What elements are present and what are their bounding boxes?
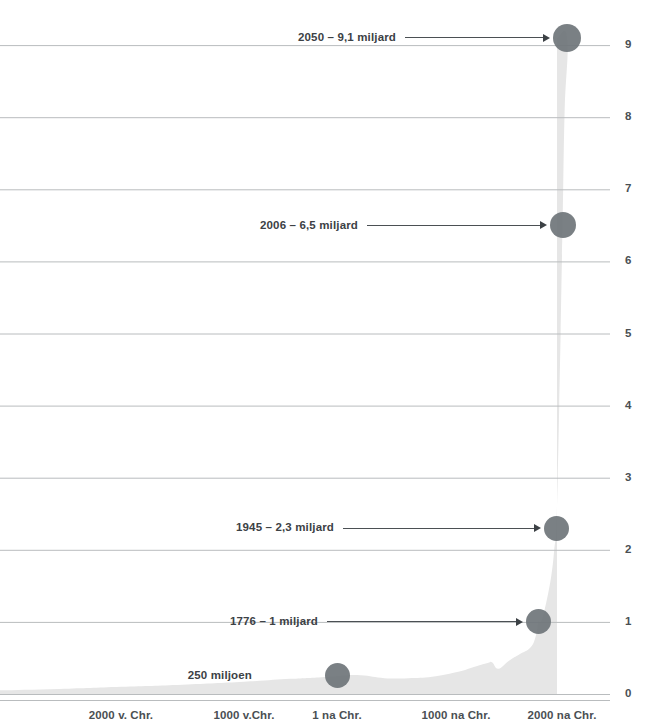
annotation-1945: 1945 – 2,3 miljard <box>236 520 541 536</box>
annotation-label-1: 250 miljoen <box>188 670 252 682</box>
arrow-shaft <box>367 225 540 226</box>
annotation-callouts: 2050 – 9,1 miljard2006 – 6,5 miljard1945… <box>0 0 657 728</box>
annotation-arrow-icon-1945 <box>343 524 541 532</box>
arrow-head <box>543 34 550 42</box>
annotation-arrow-icon-2006 <box>367 221 547 229</box>
annotation-1: 250 miljoen <box>188 668 252 684</box>
population-area-chart: 0123456789 2000 v. Chr.1000 v.Chr.1 na C… <box>0 0 657 728</box>
annotation-label-2050: 2050 – 9,1 miljard <box>298 32 396 44</box>
annotation-1776: 1776 – 1 miljard <box>230 614 523 630</box>
annotation-2006: 2006 – 6,5 miljard <box>260 217 547 233</box>
arrow-head <box>516 618 523 626</box>
annotation-arrow-icon-2050 <box>405 34 550 42</box>
annotation-label-1776: 1776 – 1 miljard <box>230 616 318 628</box>
annotation-2050: 2050 – 9,1 miljard <box>298 30 550 46</box>
arrow-shaft <box>327 621 516 622</box>
arrow-head <box>534 524 541 532</box>
arrow-shaft <box>343 528 534 529</box>
annotation-label-2006: 2006 – 6,5 miljard <box>260 220 358 232</box>
arrow-shaft <box>405 37 543 38</box>
annotation-arrow-icon-1776 <box>327 618 523 626</box>
annotation-label-1945: 1945 – 2,3 miljard <box>236 522 334 534</box>
arrow-head <box>540 221 547 229</box>
